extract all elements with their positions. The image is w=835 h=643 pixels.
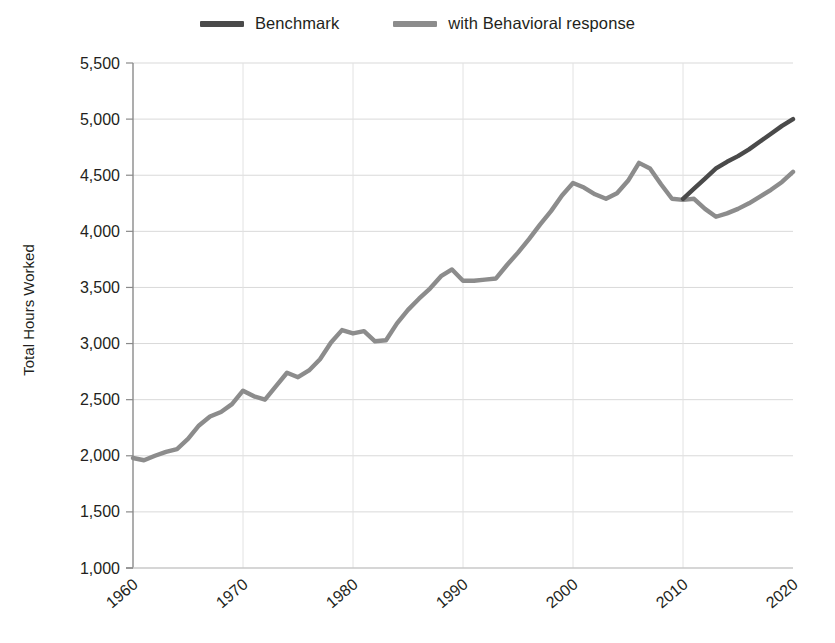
- y-tick-label: 3,500: [80, 279, 120, 296]
- x-axis-ticks: 1960197019801990200020102020: [103, 575, 801, 611]
- x-tick-label: 1990: [433, 575, 471, 611]
- y-tick-label: 3,000: [80, 335, 120, 352]
- y-tick-label: 5,000: [80, 111, 120, 128]
- y-tick-label: 1,000: [80, 560, 120, 577]
- x-tick-label: 2020: [763, 575, 801, 611]
- y-tick-label: 4,500: [80, 167, 120, 184]
- gridlines: [133, 63, 793, 568]
- y-tick-label: 2,500: [80, 391, 120, 408]
- y-tick-label: 1,500: [80, 503, 120, 520]
- y-tick-label: 2,000: [80, 447, 120, 464]
- x-tick-label: 1960: [103, 575, 141, 611]
- x-tick-label: 2000: [543, 575, 581, 611]
- y-axis-ticks: 1,0001,5002,0002,5003,0003,5004,0004,500…: [80, 55, 133, 577]
- axis-lines: [126, 63, 793, 568]
- plot-area: 1,0001,5002,0002,5003,0003,5004,0004,500…: [0, 0, 835, 643]
- y-axis-title: Total Hours Worked: [20, 244, 37, 375]
- y-tick-label: 4,000: [80, 223, 120, 240]
- y-tick-label: 5,500: [80, 55, 120, 72]
- x-tick-label: 1970: [213, 575, 251, 611]
- x-tick-label: 1980: [323, 575, 361, 611]
- x-tick-label: 2010: [653, 575, 691, 611]
- chart-container: Benchmark with Behavioral response 1,000…: [0, 0, 835, 643]
